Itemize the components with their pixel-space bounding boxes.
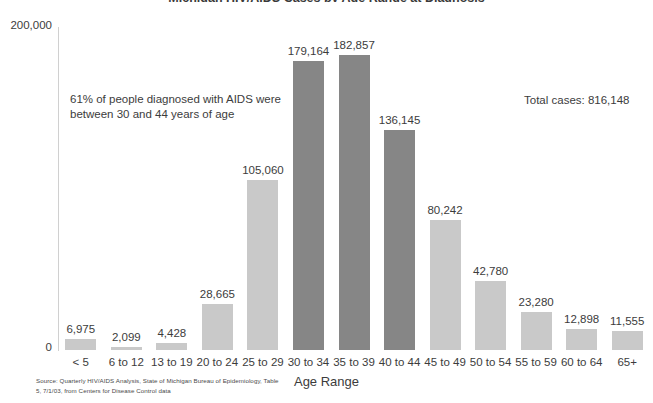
bar-value-label: 42,780 [473, 265, 508, 277]
bar [339, 55, 370, 350]
x-axis-category-label: 25 to 29 [242, 356, 284, 368]
x-axis-category-label: 6 to 12 [109, 356, 144, 368]
x-axis-category-label: < 5 [73, 356, 89, 368]
bar-value-label: 179,164 [288, 45, 330, 57]
x-axis-category-label: 20 to 24 [197, 356, 239, 368]
bar-value-label: 182,857 [333, 39, 375, 51]
bar [566, 329, 597, 350]
bar-value-label: 105,060 [242, 164, 284, 176]
bar-value-label: 11,555 [610, 315, 644, 327]
bar-value-label: 80,242 [427, 204, 462, 216]
bar-value-label: 12,898 [564, 313, 599, 325]
bar [475, 281, 506, 350]
chart-title: Michigan HIV/AIDS Cases by Age Range at … [0, 0, 653, 2]
bar-value-label: 23,280 [519, 296, 554, 308]
x-axis-category-label: 30 to 34 [288, 356, 330, 368]
bar [247, 180, 278, 350]
bar-value-label: 136,145 [379, 114, 421, 126]
total-cases-annotation: Total cases: 816,148 [524, 94, 630, 106]
bar-value-label: 6,975 [66, 323, 95, 335]
bar-value-label: 28,665 [200, 288, 235, 300]
x-axis-category-label: 55 to 59 [515, 356, 557, 368]
bar-chart: Michigan HIV/AIDS Cases by Age Range at … [0, 0, 653, 403]
x-axis-category-label: 60 to 64 [561, 356, 603, 368]
x-axis-category-label: 13 to 19 [151, 356, 193, 368]
bar [293, 61, 324, 350]
source-footnote: Source: Quarterly HIV/AIDS Analysis, Sta… [36, 376, 279, 395]
x-axis-category-label: 50 to 54 [470, 356, 512, 368]
x-axis-category-label: 45 to 49 [424, 356, 466, 368]
bar [156, 343, 187, 350]
bar [521, 312, 552, 350]
x-axis-category-label: 40 to 44 [379, 356, 421, 368]
bar [430, 220, 461, 350]
y-axis-tick-label-max: 200,000 [0, 19, 52, 31]
bar [202, 304, 233, 350]
bar [384, 130, 415, 350]
x-axis-category-label: 35 to 39 [333, 356, 375, 368]
y-axis-tick-label-zero: 0 [0, 341, 52, 353]
percentage-note-annotation: 61% of people diagnosed with AIDS were b… [70, 92, 281, 122]
bar-value-label: 4,428 [157, 327, 186, 339]
x-axis-category-label: 65+ [617, 356, 637, 368]
bar-value-label: 2,099 [112, 331, 141, 343]
bar [65, 339, 96, 350]
bar [111, 347, 142, 350]
bar [612, 331, 643, 350]
